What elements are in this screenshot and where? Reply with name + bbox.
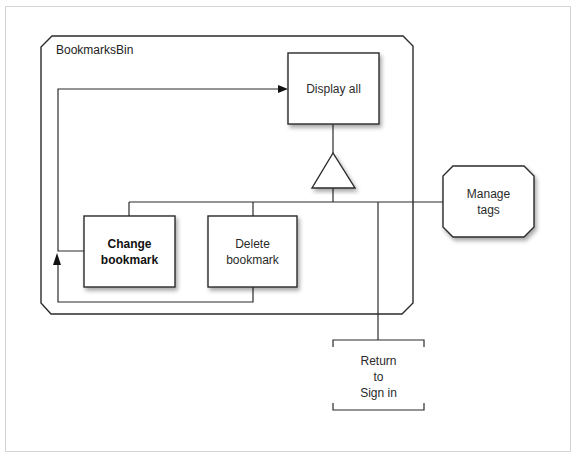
node-label-line-2: bookmark <box>226 253 280 267</box>
node-display-all[interactable]: Display all <box>288 53 379 124</box>
node-change-bookmark[interactable]: Change bookmark <box>84 216 175 287</box>
diagram-canvas: BookmarksBin Display all Change bookmar <box>0 0 578 459</box>
node-label-line-3: Sign in <box>360 386 397 400</box>
node-label-line-2: bookmark <box>101 253 159 267</box>
node-label-line-2: to <box>373 370 383 384</box>
node-label: Display all <box>306 82 361 96</box>
node-label-line-1: Change <box>107 237 151 251</box>
node-return-to-sign-in[interactable]: Return to Sign in <box>333 340 424 410</box>
node-label-line-1: Manage <box>467 187 511 201</box>
node-label-line-1: Delete <box>235 237 270 251</box>
node-label-line-2: tags <box>477 203 500 217</box>
node-label-line-1: Return <box>360 354 396 368</box>
node-delete-bookmark[interactable]: Delete bookmark <box>208 216 297 287</box>
container-label: BookmarksBin <box>56 43 133 57</box>
node-manage-tags[interactable]: Manage tags <box>443 166 534 237</box>
